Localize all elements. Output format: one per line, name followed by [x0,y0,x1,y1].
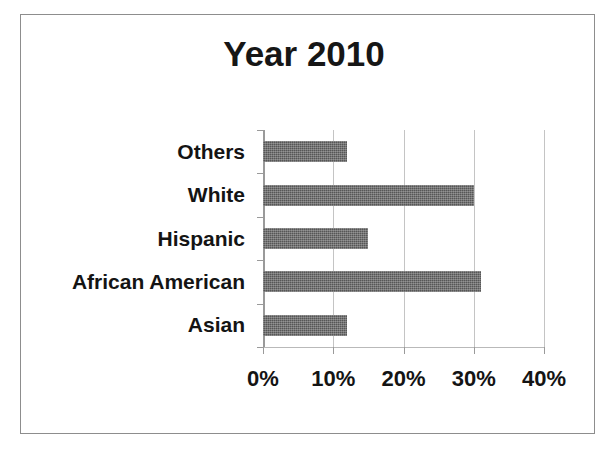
y-tick [257,304,263,305]
y-axis-label-african-american: African American [0,271,245,292]
y-axis-label-others: Others [0,141,245,162]
gridline-20 [404,130,405,347]
bar-white [263,185,474,206]
y-tick [257,217,263,218]
chart-title: Year 2010 [0,36,608,71]
x-tick-40 [544,347,545,354]
x-axis-tick-labels: 0%10%20%30%40% [263,368,544,398]
bar-african-american [263,271,481,292]
x-tick-10 [333,347,334,354]
x-tick-20 [404,347,405,354]
y-axis-label-asian: Asian [0,314,245,335]
plot-area [263,130,544,347]
x-tick-30 [474,347,475,354]
chart-figure: Year 2010 OthersWhiteHispanicAfrican Ame… [0,0,608,456]
y-axis-label-hispanic: Hispanic [0,228,245,249]
y-tick [257,347,263,348]
bar-hispanic [263,228,368,249]
x-tick-0 [263,347,264,354]
y-tick [257,173,263,174]
y-tick [257,260,263,261]
x-tick-label: 10% [311,368,355,390]
y-tick [257,130,263,131]
x-tick-label: 0% [247,368,279,390]
gridline-30 [474,130,475,347]
bar-others [263,141,347,162]
y-axis-label-white: White [0,184,245,205]
y-axis-labels: OthersWhiteHispanicAfrican AmericanAsian [0,130,245,347]
gridline-40 [544,130,545,347]
bar-asian [263,315,347,336]
x-tick-label: 30% [452,368,496,390]
x-tick-label: 40% [522,368,566,390]
x-tick-label: 20% [381,368,425,390]
